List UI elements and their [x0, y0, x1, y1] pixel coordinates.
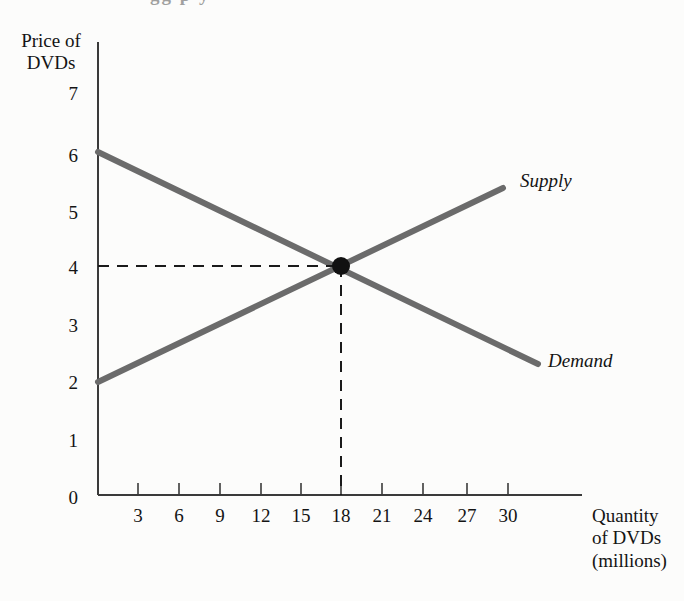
y-tick-label-5: 5 — [38, 202, 78, 224]
x-axis-title-line-3: (millions) — [592, 550, 667, 571]
x-tick-label-18: 18 — [321, 505, 361, 527]
y-axis-title: Price ofDVDs — [12, 30, 90, 75]
supply-demand-figure: gg p y Price ofDVDs — [0, 0, 684, 601]
demand-curve-label: Demand — [548, 350, 612, 372]
x-tick-label-21: 21 — [362, 505, 402, 527]
x-tick-label-3: 3 — [118, 505, 158, 527]
x-axis-ticks — [138, 483, 508, 495]
y-tick-label-4: 4 — [38, 257, 78, 279]
x-tick-label-30: 30 — [488, 505, 528, 527]
x-tick-label-24: 24 — [403, 505, 443, 527]
x-tick-label-15: 15 — [281, 505, 321, 527]
y-tick-label-0: 0 — [38, 487, 78, 509]
y-tick-label-7: 7 — [38, 83, 78, 105]
y-axis-title-line-1: Price of — [21, 30, 81, 51]
y-tick-label-6: 6 — [38, 145, 78, 167]
x-tick-label-12: 12 — [241, 505, 281, 527]
x-tick-label-6: 6 — [159, 505, 199, 527]
y-tick-label-1: 1 — [38, 430, 78, 452]
x-axis-title: Quantityof DVDs(millions) — [592, 505, 684, 572]
y-tick-label-2: 2 — [38, 372, 78, 394]
x-tick-label-9: 9 — [200, 505, 240, 527]
supply-curve-label: Supply — [520, 170, 572, 192]
x-axis-title-line-2: of DVDs — [592, 527, 661, 548]
x-tick-label-27: 27 — [447, 505, 487, 527]
equilibrium-point — [332, 257, 350, 275]
y-axis-title-line-2: DVDs — [27, 52, 76, 73]
y-tick-label-3: 3 — [38, 315, 78, 337]
x-axis-title-line-1: Quantity — [592, 505, 659, 526]
supply-curve — [98, 188, 503, 382]
demand-curve — [98, 152, 538, 364]
